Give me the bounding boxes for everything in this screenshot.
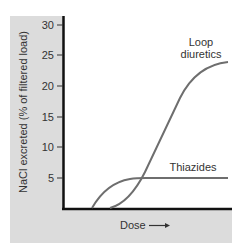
tick-30: 30 [42, 19, 54, 31]
chart: 30 25 20 15 10 5 NaCl excreted (% of fil… [0, 0, 245, 251]
tick-15: 15 [42, 111, 54, 123]
x-axis-title: Dose [120, 219, 146, 231]
tick-5: 5 [48, 172, 54, 184]
y-axis-title: NaCl excreted (% of filtered load) [17, 31, 29, 193]
tick-10: 10 [42, 141, 54, 153]
loop-diuretics-label-line2: diuretics [181, 48, 222, 60]
loop-diuretics-label-line1: Loop [189, 36, 213, 48]
tick-25: 25 [42, 49, 54, 61]
tick-20: 20 [42, 80, 54, 92]
thiazides-label: Thiazides [169, 161, 217, 173]
